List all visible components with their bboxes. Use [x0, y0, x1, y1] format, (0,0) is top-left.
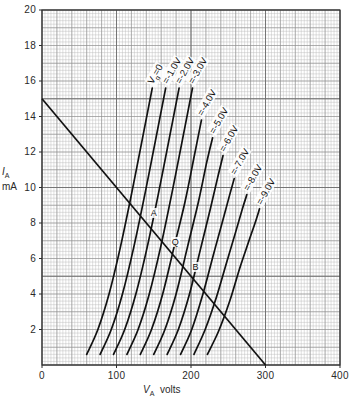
y-tick-4: 4	[8, 288, 36, 299]
curve-8	[194, 195, 247, 355]
y-tick-14: 14	[8, 111, 36, 122]
y-tick-2: 2	[8, 324, 36, 335]
curve-9	[207, 209, 259, 355]
y-tick-16: 16	[8, 75, 36, 86]
y-tick-18: 18	[8, 40, 36, 51]
x-tick-400: 400	[320, 370, 354, 381]
x-tick-100: 100	[97, 370, 137, 381]
annotation-Q: Q	[171, 237, 180, 247]
annotation-A: A	[150, 208, 158, 218]
y-tick-8: 8	[8, 217, 36, 228]
x-axis-label-sub: A	[150, 390, 155, 397]
x-axis-unit: volts	[160, 384, 181, 395]
y-tick-20: 20	[8, 4, 36, 15]
x-tick-0: 0	[22, 370, 62, 381]
x-tick-200: 200	[171, 370, 211, 381]
y-tick-6: 6	[8, 253, 36, 264]
y-axis-label-sub: A	[5, 172, 10, 179]
x-tick-300: 300	[246, 370, 286, 381]
anode-characteristics-figure: IA mA VA volts Vg=0=-1.0V=-2.0V=-3.0V=-4…	[0, 0, 354, 409]
annotation-B: B	[192, 262, 200, 272]
y-tick-10: 10	[8, 182, 36, 193]
y-tick-12: 12	[8, 146, 36, 157]
x-axis-label: VA volts	[143, 384, 180, 397]
